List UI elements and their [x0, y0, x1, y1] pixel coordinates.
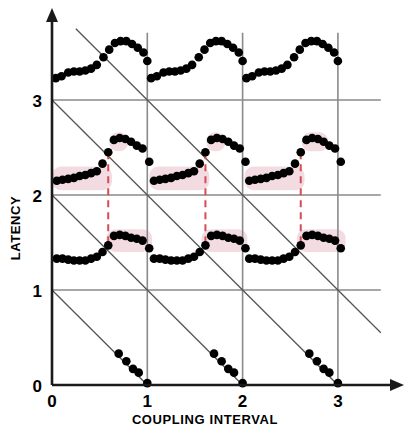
data-point	[188, 61, 197, 70]
data-point	[134, 368, 143, 377]
x-tick-label-2: 2	[238, 392, 247, 411]
x-axis-arrowhead	[390, 379, 404, 391]
data-point	[295, 45, 304, 54]
data-point	[201, 241, 210, 250]
data-point	[104, 148, 113, 157]
data-point	[195, 248, 204, 257]
x-tick-label-1: 1	[143, 392, 152, 411]
data-point	[122, 357, 131, 366]
data-point	[210, 349, 219, 358]
data-point	[145, 157, 154, 166]
y-tick-label-2: 2	[33, 187, 42, 206]
data-point	[313, 357, 322, 366]
data-point	[235, 236, 244, 245]
data-point	[296, 241, 305, 250]
data-point	[238, 57, 247, 66]
x-tick-label-0: 0	[47, 392, 56, 411]
data-point	[234, 48, 243, 57]
data-point	[201, 148, 210, 157]
data-point	[98, 159, 107, 168]
y-tick-label-3: 3	[33, 92, 42, 111]
y-tick-label-0: 0	[33, 377, 42, 396]
chart-figure: 01230123 COUPLING INTERVAL LATENCY	[0, 0, 410, 439]
series-branch-upper	[51, 37, 342, 83]
data-point	[331, 236, 340, 245]
x-axis-label: COUPLING INTERVAL	[132, 412, 278, 427]
x-tick-label-3: 3	[333, 392, 342, 411]
data-point	[194, 53, 203, 62]
data-point	[241, 157, 250, 166]
diagonal-reference-line-2	[52, 100, 338, 385]
data-point	[138, 144, 147, 153]
diagonal-reference-line-3	[76, 29, 381, 333]
data-point	[217, 357, 226, 366]
data-point	[98, 248, 107, 257]
data-point	[92, 167, 101, 176]
data-point	[291, 159, 300, 168]
data-point	[104, 241, 113, 250]
diagonal-reference-line-group	[52, 29, 381, 385]
data-point	[291, 248, 300, 257]
data-point	[296, 148, 305, 157]
data-point	[195, 159, 204, 168]
y-axis-label: LATENCY	[8, 196, 23, 261]
data-point	[283, 61, 292, 70]
data-point	[331, 144, 340, 153]
data-point	[99, 53, 108, 62]
data-point	[230, 368, 239, 377]
data-point	[305, 349, 314, 358]
data-point	[145, 244, 154, 253]
data-point	[290, 53, 299, 62]
data-point	[330, 48, 339, 57]
gridline-group	[52, 33, 381, 385]
data-point	[336, 157, 345, 166]
data-point	[336, 244, 345, 253]
data-point	[190, 167, 199, 176]
phase-resetting-scatter-plot: 01230123 COUPLING INTERVAL LATENCY	[0, 0, 410, 439]
data-point	[114, 349, 123, 358]
y-tick-label-1: 1	[33, 282, 42, 301]
data-point	[105, 45, 114, 54]
data-point	[241, 244, 250, 253]
data-point	[143, 57, 152, 66]
series-branch-bottom	[114, 349, 342, 387]
data-point	[285, 167, 294, 176]
data-point	[200, 45, 209, 54]
data-point	[325, 368, 334, 377]
data-point-group	[51, 37, 345, 388]
data-point	[92, 61, 101, 70]
data-point	[138, 236, 147, 245]
data-point	[235, 144, 244, 153]
y-axis-arrowhead	[46, 8, 58, 22]
data-point	[139, 48, 148, 57]
data-point	[334, 57, 343, 66]
